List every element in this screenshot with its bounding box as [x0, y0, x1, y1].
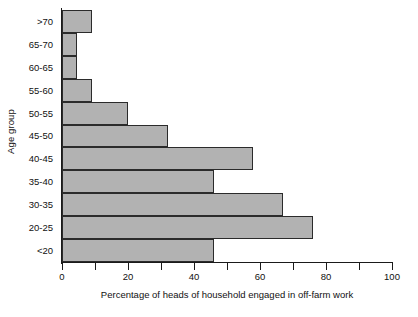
bar-row — [62, 33, 392, 56]
bar-60-65 — [62, 56, 77, 79]
bar-65-70 — [62, 33, 77, 56]
bar-50-55 — [62, 102, 128, 125]
bar-55-60 — [62, 79, 92, 102]
bar-30-35 — [62, 193, 283, 216]
bar-chart-figure: Age group >70 65-70 60-65 55-60 50-55 45… — [0, 0, 418, 317]
x-tick-major — [260, 263, 261, 270]
x-tick-minor — [95, 263, 96, 270]
bar-series — [62, 10, 392, 262]
x-tick-major — [326, 263, 327, 270]
y-tick-label: 45-50 — [12, 125, 58, 148]
x-tick-major — [392, 263, 393, 270]
y-tick-label: 20-25 — [12, 216, 58, 239]
y-tick-label: 65-70 — [12, 33, 58, 56]
plot-area — [62, 10, 392, 262]
bar-row — [62, 170, 392, 193]
bar-<20 — [62, 239, 214, 262]
y-tick-label: 35-40 — [12, 170, 58, 193]
bar-row — [62, 239, 392, 262]
y-tick-label: 40-45 — [12, 147, 58, 170]
x-tick-label: 100 — [384, 271, 400, 282]
y-tick-label: 55-60 — [12, 79, 58, 102]
y-tick-label: >70 — [12, 10, 58, 33]
bar-20-25 — [62, 216, 313, 239]
y-axis-tick-labels: >70 65-70 60-65 55-60 50-55 45-50 40-45 … — [12, 10, 58, 262]
x-axis-title: Percentage of heads of household engaged… — [62, 289, 392, 300]
y-tick-label: <20 — [12, 239, 58, 262]
x-tick-major — [194, 263, 195, 270]
x-tick-minor — [293, 263, 294, 270]
y-axis-line — [61, 8, 62, 264]
y-tick-label: 30-35 — [12, 193, 58, 216]
bar-row — [62, 216, 392, 239]
bar-40-45 — [62, 147, 253, 170]
x-tick-label: 40 — [189, 271, 200, 282]
x-tick-label: 80 — [321, 271, 332, 282]
bar-row — [62, 193, 392, 216]
y-tick-label: 50-55 — [12, 102, 58, 125]
bar-45-50 — [62, 125, 168, 148]
x-tick-major — [62, 263, 63, 270]
bar-row — [62, 102, 392, 125]
x-tick-minor — [227, 263, 228, 270]
bar-row — [62, 10, 392, 33]
x-tick-minor — [359, 263, 360, 270]
bar-row — [62, 125, 392, 148]
x-tick-major — [128, 263, 129, 270]
y-tick-label: 60-65 — [12, 56, 58, 79]
bar-row — [62, 147, 392, 170]
x-tick-minor — [161, 263, 162, 270]
bar->70 — [62, 10, 92, 33]
bar-row — [62, 79, 392, 102]
x-tick-label: 0 — [59, 271, 64, 282]
x-tick-label: 20 — [123, 271, 134, 282]
bar-35-40 — [62, 170, 214, 193]
x-tick-label: 60 — [255, 271, 266, 282]
bar-row — [62, 56, 392, 79]
